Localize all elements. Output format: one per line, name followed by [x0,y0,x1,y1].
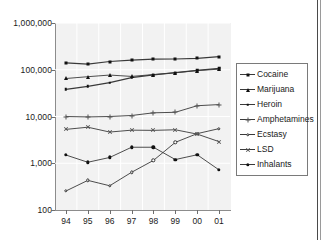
legend-label: Inhalants [257,160,292,169]
plus-marker-icon [129,113,134,118]
filled-square-marker-icon [86,63,89,66]
data-point-cocaine [150,56,157,63]
chart-legend: CocaineMarijuanaHeroinAmphetaminesEcstas… [236,63,308,176]
data-point-heroin [150,71,157,78]
legend-label: Heroin [257,100,282,109]
data-point-heroin [216,65,223,72]
data-point-amphetamines [128,112,135,119]
plus-marker-icon [195,103,200,108]
legend-label: Ecstasy [257,130,287,139]
data-point-marijuana [84,73,91,80]
data-point-inhalants [62,152,69,159]
legend-item-marijuana[interactable]: Marijuana [237,82,307,97]
legend-label: LSD [257,145,274,154]
y-axis-tick [51,163,55,164]
filled-triangle-marker-icon [64,76,68,80]
plus-marker-icon [63,114,68,119]
filled-square-marker-icon [196,57,199,60]
x-cross-marker-icon [63,127,68,132]
legend-item-lsd[interactable]: LSD [237,142,307,157]
data-point-lsd [84,124,91,131]
filled-triangle-marker-icon [246,88,250,92]
data-point-cocaine [194,55,201,62]
data-point-marijuana [62,75,69,82]
legend-key-ecstasy [240,130,255,140]
y-axis-tick [51,70,55,71]
filled-square-marker-icon [246,73,249,76]
x-cross-marker-icon [107,130,112,135]
open-circle-marker-icon [217,127,220,130]
page-border-line [317,0,318,240]
data-point-amphetamines [216,101,223,108]
legend-item-cocaine[interactable]: Cocaine [237,67,307,82]
filled-square-small-marker-icon [196,69,199,72]
data-point-amphetamines [84,113,91,120]
plus-marker-icon [107,114,112,119]
data-point-amphetamines [62,113,69,120]
filled-square-small-marker-icon [108,81,111,84]
data-point-cocaine [62,59,69,66]
legend-key-marijuana [240,85,255,95]
filled-circle-marker-icon [195,153,198,156]
data-point-cocaine [172,55,179,62]
plot-area [55,23,231,211]
data-point-heroin [194,67,201,74]
legend-item-amphetamines[interactable]: Amphetamines [237,112,307,127]
filled-circle-marker-icon [152,146,155,149]
legend-key-inhalants [240,160,255,170]
data-point-ecstasy [150,157,157,164]
filled-circle-marker-icon [64,153,67,156]
open-circle-marker-icon [246,133,249,136]
data-point-ecstasy [84,177,91,184]
plus-marker-icon [173,110,178,115]
data-point-cocaine [106,58,113,65]
data-point-lsd [128,127,135,134]
x-axis-tick [175,210,176,214]
filled-square-small-marker-icon [87,85,90,88]
y-axis-tick-label: 1,000 [30,159,52,168]
legend-item-inhalants[interactable]: Inhalants [237,157,307,172]
chart-figure: 1,000,000100,00010,0001,000100 949596979… [0,0,326,240]
page-border-line-secondary [320,0,321,240]
legend-label: Cocaine [257,70,288,79]
x-cross-marker-icon [217,139,222,144]
open-circle-marker-icon [64,189,67,192]
data-point-inhalants [128,144,135,151]
data-point-lsd [172,126,179,133]
data-point-inhalants [84,159,91,166]
legend-label: Marijuana [257,85,294,94]
open-circle-marker-icon [130,171,133,174]
data-point-inhalants [194,151,201,158]
x-axis-tick-label: 96 [101,217,119,226]
x-axis-tick [110,210,111,214]
filled-circle-marker-icon [174,158,177,161]
x-axis-tick [219,210,220,214]
x-axis-tick-label: 97 [123,217,141,226]
legend-key-cocaine [240,70,255,80]
data-point-inhalants [216,166,223,173]
data-point-cocaine [216,53,223,60]
x-axis-tick [66,210,67,214]
data-point-amphetamines [150,109,157,116]
data-point-lsd [106,129,113,136]
x-axis-tick [197,210,198,214]
filled-square-small-marker-icon [174,71,177,74]
filled-square-marker-icon [174,57,177,60]
x-cross-marker-icon [245,147,250,152]
legend-item-ecstasy[interactable]: Ecstasy [237,127,307,142]
filled-square-marker-icon [108,60,111,63]
legend-key-heroin [240,100,255,110]
filled-circle-marker-icon [246,163,249,166]
legend-label: Amphetamines [257,115,314,124]
legend-key-lsd [240,145,255,155]
data-point-heroin [128,74,135,81]
open-circle-marker-icon [174,141,177,144]
x-cross-marker-icon [195,132,200,137]
legend-item-heroin[interactable]: Heroin [237,97,307,112]
y-axis-tick-label: 10,000 [25,113,52,122]
y-axis-tick [51,23,55,24]
x-cross-marker-icon [85,125,90,130]
data-point-lsd [194,131,201,138]
plus-marker-icon [217,102,222,107]
x-axis-tick [153,210,154,214]
